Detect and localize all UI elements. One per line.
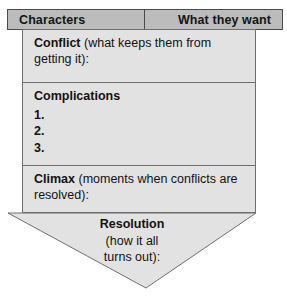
section-resolution-lead: Resolution [8, 216, 256, 233]
complications-list: 1. 2. 3. [34, 107, 245, 157]
section-conflict-lead: Conflict [34, 36, 81, 50]
section-resolution-line3: turns out): [8, 249, 256, 266]
header-cell-what-they-want: What they want [145, 10, 282, 29]
header-label-what-they-want: What they want [178, 13, 271, 27]
section-resolution: Resolution (how it all turns out): [8, 216, 256, 266]
list-item: 1. [34, 107, 245, 124]
section-complications: Complications 1. 2. 3. [23, 83, 255, 166]
list-item: 3. [34, 140, 245, 157]
header-cell-characters: Characters [8, 10, 145, 29]
header-label-characters: Characters [19, 13, 85, 27]
section-conflict: Conflict (what keeps them from getting i… [23, 30, 255, 83]
body-box: Conflict (what keeps them from getting i… [22, 29, 256, 213]
section-resolution-line2: (how it all [8, 233, 256, 250]
section-complications-lead: Complications [34, 89, 120, 103]
section-climax-lead: Climax [34, 172, 75, 186]
list-item: 2. [34, 123, 245, 140]
header-row: Characters What they want [7, 9, 283, 30]
worksheet-canvas: Characters What they want Conflict (what… [0, 0, 287, 298]
section-climax: Climax (moments when conflicts are resol… [23, 166, 255, 212]
